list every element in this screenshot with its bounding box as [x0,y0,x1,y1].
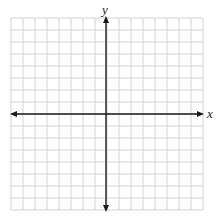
x-axis-label: x [206,106,213,121]
y-axis-label: y [100,2,108,17]
coordinate-plane: x y [0,0,217,218]
y-axis-up-arrow-icon [103,16,109,23]
y-axis-down-arrow-icon [103,205,109,212]
